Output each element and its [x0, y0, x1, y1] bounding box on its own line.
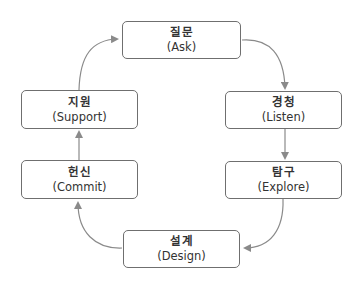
node-listen-korean-label: 경청 [272, 95, 295, 110]
node-design-korean-label: 설계 [170, 234, 193, 249]
node-explore-english-label: (Explore) [257, 180, 309, 195]
node-design-english-label: (Design) [157, 249, 206, 264]
node-commit: 헌신 (Commit) [21, 160, 138, 199]
node-commit-korean-label: 헌신 [68, 165, 91, 180]
node-support-korean-label: 지원 [68, 95, 91, 110]
node-support: 지원 (Support) [21, 90, 138, 129]
arrow-support-to-ask [79, 39, 117, 90]
arrow-explore-to-design [245, 199, 283, 248]
node-listen-english-label: (Listen) [262, 110, 305, 125]
node-commit-english-label: (Commit) [52, 180, 106, 195]
node-explore: 탐구 (Explore) [225, 161, 342, 199]
arrow-ask-to-listen [242, 40, 285, 88]
node-ask-english-label: (Ask) [167, 40, 197, 55]
node-explore-korean-label: 탐구 [272, 165, 295, 180]
node-listen: 경청 (Listen) [225, 91, 342, 129]
node-ask: 질문 (Ask) [122, 21, 241, 59]
arrow-design-to-commit [78, 203, 122, 248]
node-design: 설계 (Design) [123, 230, 240, 268]
node-ask-korean-label: 질문 [170, 25, 193, 40]
node-support-english-label: (Support) [52, 110, 106, 125]
